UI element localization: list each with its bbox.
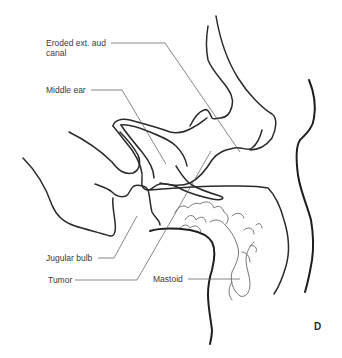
mastoid-inner-boundary <box>150 229 214 344</box>
ear-canal-contour <box>160 130 262 185</box>
mastoid-air-cells <box>175 202 262 300</box>
leader-eroded-canal <box>111 43 240 152</box>
label-eroded-ext-aud-canal: Eroded ext. aud canal <box>46 38 106 58</box>
panel-letter: D <box>314 321 321 332</box>
leader-jugular-bulb <box>98 216 137 258</box>
label-jugular-bulb: Jugular bulb <box>46 253 92 263</box>
face-contour <box>297 80 315 292</box>
ossicle-contour <box>190 26 233 126</box>
label-tumor: Tumor <box>48 275 72 285</box>
label-middle-ear: Middle ear <box>46 85 86 95</box>
label-mastoid: Mastoid <box>153 274 183 284</box>
petrous-outline <box>69 132 140 173</box>
lower-left-lobe <box>23 158 115 236</box>
